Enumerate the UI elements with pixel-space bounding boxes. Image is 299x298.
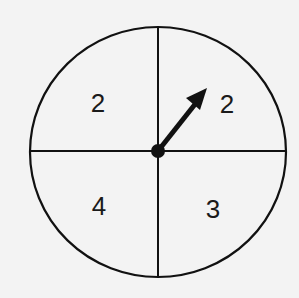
spinner-pivot (151, 144, 165, 158)
section-label-bottom-right: 3 (206, 194, 220, 224)
section-label-top-left: 2 (91, 88, 105, 118)
spinner-arrow-icon (158, 88, 207, 151)
section-label-top-right: 2 (220, 89, 234, 119)
section-label-bottom-left: 4 (92, 191, 106, 221)
spinner-diagram: 2 2 4 3 (0, 0, 299, 298)
